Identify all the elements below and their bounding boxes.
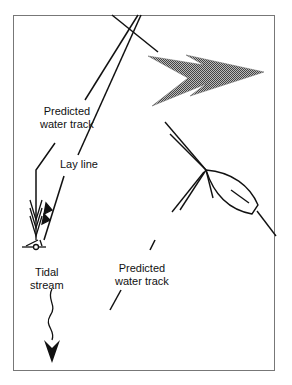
label-line: Predicted <box>40 105 94 118</box>
label-lay-line: Lay line <box>60 158 98 171</box>
label-line: stream <box>30 279 64 292</box>
label-tidal-stream: Tidal stream <box>30 266 64 292</box>
top-cross-lines <box>78 15 158 155</box>
label-line: water track <box>115 275 169 288</box>
label-predicted-water-track-right: Predicted water track <box>115 262 169 288</box>
left-boat-marker <box>22 200 52 250</box>
sailboat <box>165 122 276 236</box>
label-line: water track <box>40 118 94 131</box>
diagram-canvas <box>0 0 292 385</box>
label-line: Tidal <box>30 266 64 279</box>
label-line: Predicted <box>115 262 169 275</box>
tidal-stream-arrow <box>44 289 60 363</box>
label-predicted-water-track-left: Predicted water track <box>40 105 94 131</box>
wind-arrow <box>148 55 264 106</box>
